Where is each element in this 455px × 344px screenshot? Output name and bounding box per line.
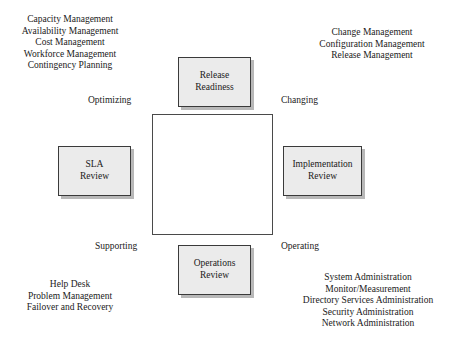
list-item: Monitor/Measurement <box>285 284 451 296</box>
list-item: Security Administration <box>285 307 451 319</box>
box-implementation-review[interactable]: Implementation Review <box>283 146 362 196</box>
list-item: Network Administration <box>285 318 451 330</box>
box-label: Operations Review <box>194 258 236 281</box>
center-rectangle <box>152 114 273 235</box>
corner-list-top-right: Change Management Configuration Manageme… <box>297 27 447 62</box>
list-item: Failover and Recovery <box>6 302 134 314</box>
quadrant-label-optimizing: Optimizing <box>88 94 131 106</box>
box-release-readiness[interactable]: Release Readiness <box>178 57 251 107</box>
box-label: SLA Review <box>80 159 109 182</box>
list-item: System Administration <box>285 272 451 284</box>
corner-list-top-left: Capacity Management Availability Managem… <box>6 14 134 72</box>
list-item: Problem Management <box>6 291 134 303</box>
list-item: Release Management <box>297 50 447 62</box>
quadrant-label-operating: Operating <box>281 240 319 252</box>
box-sla-review[interactable]: SLA Review <box>58 146 131 196</box>
quadrant-label-changing: Changing <box>281 94 318 106</box>
list-item: Workforce Management <box>6 49 134 61</box>
list-item: Capacity Management <box>6 14 134 26</box>
diagram-canvas: Capacity Management Availability Managem… <box>0 0 455 344</box>
box-label: Implementation Review <box>292 159 352 182</box>
list-item: Contingency Planning <box>6 60 134 72</box>
list-item: Configuration Management <box>297 39 447 51</box>
list-item: Change Management <box>297 27 447 39</box>
list-item: Directory Services Administration <box>285 295 451 307</box>
corner-list-bottom-left: Help Desk Problem Management Failover an… <box>6 279 134 314</box>
list-item: Cost Management <box>6 37 134 49</box>
box-label: Release Readiness <box>195 70 234 93</box>
box-operations-review[interactable]: Operations Review <box>178 245 251 295</box>
quadrant-label-supporting: Supporting <box>95 240 137 252</box>
corner-list-bottom-right: System Administration Monitor/Measuremen… <box>285 272 451 330</box>
list-item: Availability Management <box>6 26 134 38</box>
list-item: Help Desk <box>6 279 134 291</box>
